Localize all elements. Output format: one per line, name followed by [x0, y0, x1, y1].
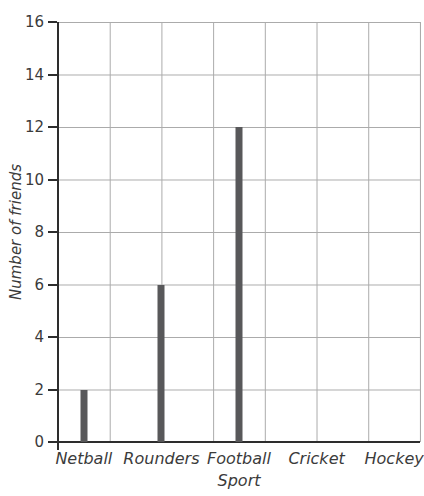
- y-tick-14: [48, 74, 57, 76]
- x-axis-line: [48, 441, 420, 443]
- y-tick-label-12: 12: [25, 120, 44, 135]
- y-tick-8: [48, 231, 57, 233]
- y-tick-label-4: 4: [34, 330, 44, 345]
- y-tick-4: [48, 336, 57, 338]
- y-tick-label-10: 10: [25, 172, 44, 187]
- y-tick-10: [48, 179, 57, 181]
- y-tick-label-14: 14: [25, 67, 44, 82]
- y-axis-title: Number of friends: [9, 164, 24, 300]
- y-tick-16: [48, 21, 57, 23]
- y-tick-2: [48, 389, 57, 391]
- category-label-netball: Netball: [55, 451, 112, 467]
- category-label-hockey: Hockey: [365, 451, 424, 467]
- plot-area: 0246810121416 NetballRoundersFootballCri…: [58, 22, 421, 442]
- x-axis-title: Sport: [218, 473, 261, 489]
- category-label-cricket: Cricket: [288, 451, 344, 467]
- bar-netball: [80, 390, 87, 443]
- category-label-football: Football: [207, 451, 271, 467]
- y-tick-label-2: 2: [34, 382, 44, 397]
- y-tick-label-0: 0: [34, 435, 44, 450]
- y-tick-12: [48, 126, 57, 128]
- y-tick-0: [48, 441, 57, 443]
- y-tick-label-6: 6: [34, 277, 44, 292]
- y-tick-label-8: 8: [34, 225, 44, 240]
- y-axis-line: [57, 22, 59, 450]
- y-tick-label-16: 16: [25, 15, 44, 30]
- category-label-rounders: Rounders: [123, 451, 199, 467]
- bar-football: [236, 127, 243, 442]
- y-tick-6: [48, 284, 57, 286]
- bar-rounders: [158, 285, 165, 443]
